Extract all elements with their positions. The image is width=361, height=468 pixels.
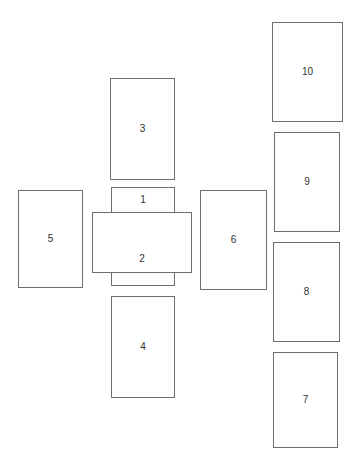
rect-7-label: 7 [274, 395, 337, 405]
rect-10-label: 10 [273, 67, 342, 77]
rect-3-label: 3 [111, 124, 174, 134]
rect-3[interactable]: 3 [110, 78, 175, 180]
rect-6-label: 6 [201, 235, 266, 245]
rect-2-label: 2 [93, 254, 191, 264]
rect-unlabeled-bottom[interactable] [111, 272, 175, 286]
rect-6[interactable]: 6 [200, 190, 267, 290]
rect-9[interactable]: 9 [274, 132, 340, 232]
rect-10[interactable]: 10 [272, 22, 343, 122]
rect-2[interactable]: 2 [92, 212, 192, 273]
rect-4-label: 4 [112, 342, 174, 352]
rect-1[interactable]: 1 [111, 187, 175, 213]
rect-4[interactable]: 4 [111, 296, 175, 398]
diagram-canvas: 12345678910 [0, 0, 361, 468]
rect-5-label: 5 [19, 234, 82, 244]
rect-8[interactable]: 8 [273, 242, 340, 342]
rect-1-label: 1 [112, 195, 174, 205]
rect-7[interactable]: 7 [273, 352, 338, 448]
rect-9-label: 9 [275, 177, 339, 187]
rect-5[interactable]: 5 [18, 190, 83, 288]
rect-8-label: 8 [274, 287, 339, 297]
